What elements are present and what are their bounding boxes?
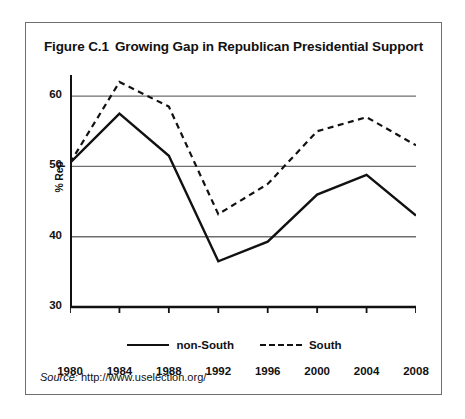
y-axis-label: % Rep	[53, 142, 65, 212]
y-tick-label: 30	[36, 299, 62, 311]
figure-title-text: Growing Gap in Republican Presidential S…	[115, 39, 423, 54]
y-tick-label: 40	[36, 229, 62, 241]
x-tick-label: 1996	[246, 365, 290, 377]
series-line-south	[70, 82, 416, 214]
source-url: http://www.uselection.org/	[81, 371, 206, 383]
source-note: Source: http://www.uselection.org/	[40, 371, 206, 383]
figure-number: Figure C.1	[44, 39, 109, 54]
chart-legend: non-South South	[26, 339, 443, 351]
x-tick-label: 2008	[394, 365, 438, 377]
y-tick-label: 50	[36, 158, 62, 170]
plot-area: 3040506019801984198819921996200020042008	[70, 75, 416, 307]
x-tick-label: 2000	[295, 365, 339, 377]
legend-entry-non-south: non-South	[127, 339, 233, 351]
figure-frame: Figure C.1Growing Gap in Republican Pres…	[25, 22, 442, 395]
series-line-non-south	[70, 114, 416, 262]
figure-title: Figure C.1Growing Gap in Republican Pres…	[26, 39, 441, 54]
line-chart	[70, 75, 416, 375]
legend-swatch-dashed-icon	[260, 344, 302, 346]
legend-swatch-solid-icon	[127, 344, 169, 346]
source-label: Source:	[40, 371, 78, 383]
legend-label-non-south: non-South	[176, 339, 233, 351]
x-tick-label: 2004	[345, 365, 389, 377]
legend-label-south: South	[309, 339, 342, 351]
legend-entry-south: South	[260, 339, 342, 351]
y-tick-label: 60	[36, 88, 62, 100]
